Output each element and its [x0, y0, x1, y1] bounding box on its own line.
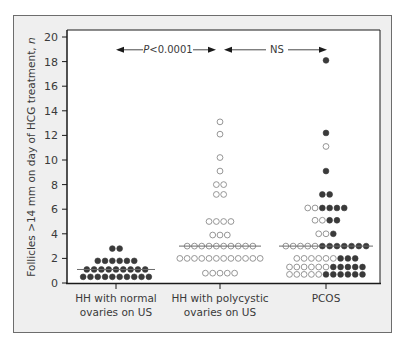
filled-dot [341, 205, 347, 211]
filled-dot [360, 271, 366, 277]
open-dot [235, 256, 241, 262]
open-dot [217, 168, 223, 174]
open-dot [323, 264, 329, 270]
open-dot [217, 270, 223, 276]
open-dot [301, 264, 307, 270]
open-dot [316, 256, 322, 262]
open-dot [221, 256, 227, 262]
open-dot [312, 217, 318, 223]
open-dot [217, 232, 223, 238]
open-dot [184, 256, 190, 262]
y-tick-label: 10 [44, 154, 58, 167]
ns-annotation: NS [270, 44, 284, 55]
filled-dot [95, 258, 101, 264]
filled-dot [327, 217, 333, 223]
open-dot [250, 256, 256, 262]
open-dot [305, 205, 311, 211]
open-dot [323, 256, 329, 262]
x-category-label: PCOS [312, 292, 341, 304]
filled-dot [352, 271, 358, 277]
filled-dot [345, 271, 351, 277]
open-dot [323, 231, 329, 237]
filled-dot [334, 217, 340, 223]
filled-dot [330, 264, 336, 270]
open-dot [309, 271, 315, 277]
open-dot [203, 270, 209, 276]
open-dot [192, 256, 198, 262]
filled-dot [345, 256, 351, 262]
filled-dot [102, 258, 108, 264]
filled-dot [124, 274, 130, 280]
filled-dot [338, 256, 344, 262]
open-dot [224, 270, 230, 276]
open-dot [309, 264, 315, 270]
open-dot [287, 271, 293, 277]
dot-plot-chart: P<0.0001NS 02468101214161820 HH with nor… [0, 0, 407, 350]
open-dot [221, 182, 227, 188]
filled-dot [330, 231, 336, 237]
filled-dot [80, 274, 86, 280]
y-tick-label: 4 [51, 228, 58, 241]
open-dot [294, 264, 300, 270]
open-dot [213, 192, 219, 198]
filled-dot [352, 264, 358, 270]
y-tick-label: 20 [44, 31, 58, 44]
x-category-label: HH with polycystic [171, 292, 268, 304]
open-dot [301, 256, 307, 262]
filled-dot [345, 264, 351, 270]
open-dot [228, 256, 234, 262]
open-dot [330, 256, 336, 262]
open-dot [217, 155, 223, 161]
open-dot [323, 144, 329, 150]
filled-dot [139, 274, 145, 280]
y-axis-label: Follicles >14 mm on day of HCG treatment… [25, 37, 37, 276]
open-dot [309, 256, 315, 262]
filled-dot [334, 205, 340, 211]
filled-dot [323, 271, 329, 277]
y-tick-label: 6 [51, 203, 58, 216]
open-dot [210, 270, 216, 276]
open-dot [206, 219, 212, 225]
open-dot [206, 256, 212, 262]
open-dot [224, 232, 230, 238]
open-dot [316, 231, 322, 237]
open-dot [316, 264, 322, 270]
y-tick-label: 2 [51, 252, 58, 265]
x-axis-ticks: HH with normalovaries on USHH with polyc… [75, 284, 340, 318]
filled-dot [102, 274, 108, 280]
open-dot [228, 219, 234, 225]
y-tick-label: 16 [44, 80, 58, 93]
filled-dot [109, 246, 115, 252]
x-category-label: ovaries on US [80, 306, 153, 318]
filled-dot [323, 130, 329, 136]
open-dot [213, 219, 219, 225]
filled-dot [88, 274, 94, 280]
x-category-label: ovaries on US [184, 306, 257, 318]
filled-dot [323, 57, 329, 63]
filled-dot [330, 271, 336, 277]
open-dot [232, 270, 238, 276]
y-tick-label: 18 [44, 56, 58, 69]
filled-dot [323, 168, 329, 174]
filled-dot [319, 205, 325, 211]
open-dot [213, 256, 219, 262]
filled-dot [327, 205, 333, 211]
open-dot [217, 131, 223, 137]
open-dot [210, 232, 216, 238]
y-tick-label: 14 [44, 105, 58, 118]
filled-dot [117, 246, 123, 252]
filled-dot [146, 274, 152, 280]
open-dot [312, 205, 318, 211]
filled-dot [131, 274, 137, 280]
filled-dot [117, 258, 123, 264]
filled-dot [124, 258, 130, 264]
open-dot [287, 264, 293, 270]
filled-dot [360, 264, 366, 270]
open-dot [177, 256, 183, 262]
open-dot [316, 271, 322, 277]
open-dot [213, 182, 219, 188]
filled-dot [319, 192, 325, 198]
filled-dot [117, 274, 123, 280]
filled-dot [109, 274, 115, 280]
filled-dot [327, 192, 333, 198]
